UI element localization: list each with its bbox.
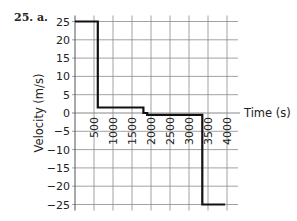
x-tick-label: 1000 bbox=[107, 117, 120, 145]
x-axis-title: Time (s) bbox=[243, 106, 291, 120]
y-tick-label: −5 bbox=[54, 125, 70, 138]
y-tick-label: 25 bbox=[56, 16, 70, 29]
y-tick-label: 5 bbox=[63, 89, 70, 102]
velocity-time-chart: 2520151050−5−10−15−20−25 500100015002000… bbox=[0, 0, 297, 221]
y-tick-label: 15 bbox=[56, 52, 70, 65]
x-tick-label: 3000 bbox=[183, 117, 196, 145]
x-tick-label: 2500 bbox=[164, 117, 177, 145]
x-tick-label: 2000 bbox=[145, 117, 158, 145]
x-tick-label: 500 bbox=[88, 117, 101, 138]
y-tick-label: 20 bbox=[56, 34, 70, 47]
y-tick-label: 0 bbox=[63, 107, 70, 120]
x-tick-label: 3500 bbox=[202, 117, 215, 145]
y-tick-label: −20 bbox=[47, 180, 70, 193]
y-axis-tick-labels: 2520151050−5−10−15−20−25 bbox=[47, 16, 70, 212]
y-axis-title: Velocity (m/s) bbox=[32, 74, 46, 153]
x-tick-label: 1500 bbox=[126, 117, 139, 145]
y-tick-label: −15 bbox=[47, 162, 70, 175]
y-tick-label: 10 bbox=[56, 70, 70, 83]
y-tick-label: −10 bbox=[47, 144, 70, 157]
x-tick-label: 4000 bbox=[221, 117, 234, 145]
y-tick-label: −25 bbox=[47, 199, 70, 212]
